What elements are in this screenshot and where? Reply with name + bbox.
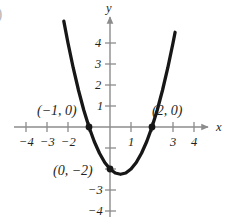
label-right-root: (2, 0)	[152, 104, 182, 118]
label-y-intercept: (0, −2)	[53, 164, 93, 178]
parabola-plot	[0, 0, 229, 221]
y-axis-label: y	[106, 2, 112, 15]
point-left-root	[86, 124, 93, 131]
point-right-root	[149, 124, 156, 131]
x-axis-label: x	[216, 121, 222, 134]
point-y-intercept	[107, 166, 114, 173]
graph-figure: )	[0, 0, 229, 221]
y-tick-label-2: 2	[95, 79, 101, 92]
x-tick-label--2: −2	[61, 136, 76, 149]
x-tick-label-4: 4	[191, 136, 197, 149]
y-tick-label--3: −3	[88, 184, 103, 197]
x-tick-label-1: 1	[128, 136, 134, 149]
parabola-curve	[64, 21, 175, 174]
y-tick-label-1: 1	[97, 100, 103, 113]
x-tick-label-3: 3	[170, 136, 176, 149]
x-tick-label--3: −3	[40, 136, 55, 149]
y-tick-label--4: −4	[88, 205, 103, 218]
x-tick-label--4: −4	[19, 136, 34, 149]
y-tick-label-3: 3	[95, 58, 101, 71]
label-left-root: (−1, 0)	[37, 104, 77, 118]
y-tick-label-4: 4	[95, 37, 101, 50]
